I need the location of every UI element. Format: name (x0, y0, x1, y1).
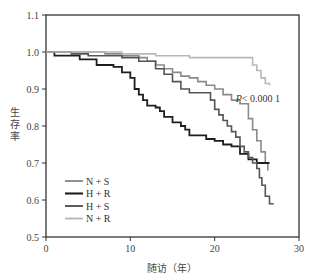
series-line-ns (46, 52, 268, 170)
y-axis-title: 生存率 (10, 106, 20, 142)
legend: N + SH + RH + SN + R (65, 176, 111, 225)
y-tick-label: 0.9 (27, 84, 40, 95)
x-axis-title: 随访（年） (147, 262, 197, 274)
legend-label: H + R (86, 188, 111, 199)
x-tick-label: 10 (125, 243, 135, 254)
plot-border (46, 15, 299, 237)
y-tick-label: 1.0 (27, 47, 40, 58)
plot-area (46, 15, 299, 237)
y-tick-label: 1.1 (27, 10, 40, 21)
x-axis: 0102030 (44, 237, 305, 254)
y-tick-label: 0.5 (27, 232, 40, 243)
p-value-annotation: P< 0.000 1 (235, 93, 280, 104)
x-tick-label: 20 (210, 243, 220, 254)
y-tick-label: 0.8 (27, 121, 40, 132)
y-axis: 0.50.60.70.80.91.01.1 (27, 10, 47, 243)
x-tick-label: 0 (44, 243, 49, 254)
y-tick-label: 0.6 (27, 195, 40, 206)
legend-label: N + R (86, 213, 111, 224)
legend-label: N + S (86, 176, 109, 187)
legend-label: H + S (86, 201, 109, 212)
survival-chart: 0.50.60.70.80.91.01.1 0102030 P< 0.000 1… (0, 0, 313, 277)
x-tick-label: 30 (294, 243, 304, 254)
y-tick-label: 0.7 (27, 158, 40, 169)
